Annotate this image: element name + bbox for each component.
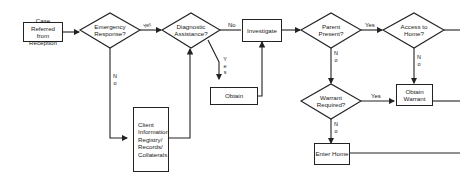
warrant-no-label: N o (333, 121, 339, 134)
obtain-warrant-label: Obtain Warrant (397, 88, 432, 103)
client-info-label: Client Information Registry/ Records/ Co… (138, 121, 169, 158)
case-referred-box: Case Referred from Reception (23, 22, 63, 42)
investigate-box: Investigate (242, 19, 282, 42)
parent-yes-label: Yes (365, 22, 375, 28)
warrant-required-label: Warrant Required? (313, 91, 349, 111)
case-referred-label: Case Referred from Reception (24, 17, 62, 47)
diagnostic-label: Diagnostic Assistance? (172, 20, 210, 40)
access-home-label: Access to Home? (398, 20, 430, 40)
access-no-label: N o (416, 54, 422, 67)
obtain-label: Obtain (225, 92, 243, 99)
diagnostic-no-label: No (228, 22, 236, 28)
emergency-no-label: N o (112, 73, 118, 86)
emergency-label: Emergency Response? (92, 20, 128, 40)
client-info-box: Client Information Registry/ Records/ Co… (133, 107, 169, 172)
parent-present-label: Parent Present? (315, 20, 347, 40)
obtain-warrant-box: Obtain Warrant (396, 84, 433, 106)
warrant-yes-label: Yes (371, 93, 381, 99)
obtain-box: Obtain (210, 87, 258, 105)
parent-no-label: N o (333, 50, 339, 63)
enter-home-label: Enter Home (315, 150, 348, 157)
diagnostic-yes-label: Y e s (222, 56, 228, 76)
investigate-label: Investigate (247, 27, 277, 34)
enter-home-box: Enter Home (314, 143, 350, 165)
